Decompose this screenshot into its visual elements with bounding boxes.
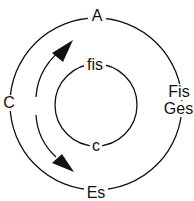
label-a: A bbox=[88, 8, 106, 24]
label-c-minor: c bbox=[90, 138, 102, 154]
label-fis: Fis bbox=[165, 84, 193, 100]
arrowhead-up-icon bbox=[52, 40, 73, 62]
label-c: C bbox=[2, 95, 16, 111]
outer-circle bbox=[10, 18, 182, 190]
label-ges: Ges bbox=[163, 101, 194, 117]
inner-circle bbox=[55, 64, 137, 146]
label-fis-minor: fis bbox=[84, 57, 106, 73]
arc-arrow-down bbox=[36, 115, 56, 157]
label-es: Es bbox=[84, 185, 108, 201]
circle-of-fifths-diagram: A C Fis Ges Es fis c bbox=[0, 0, 194, 201]
